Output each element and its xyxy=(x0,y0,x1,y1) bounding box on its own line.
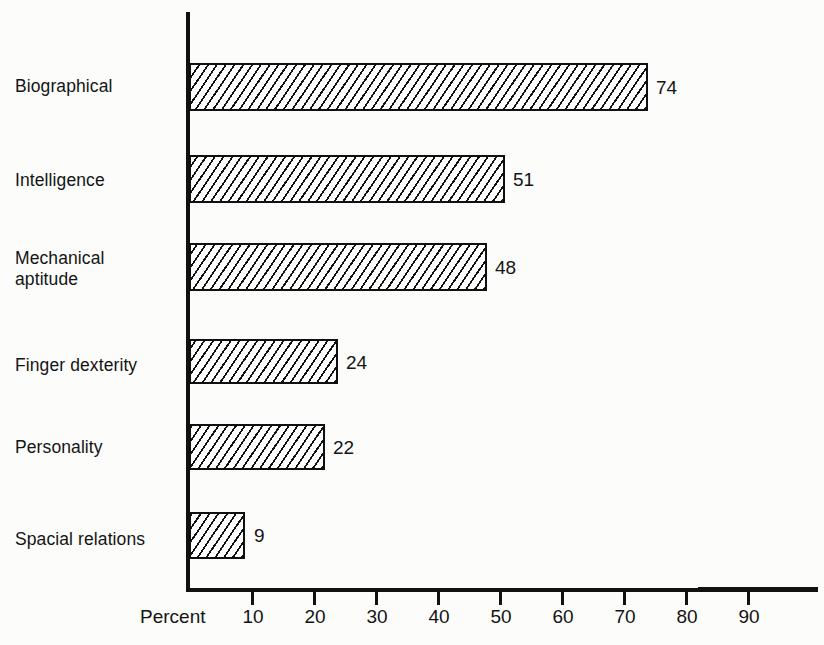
x-tick-label-60: 60 xyxy=(541,606,585,628)
bar-mechanical-aptitude xyxy=(189,243,487,291)
x-tick-60 xyxy=(561,592,564,605)
x-tick-70 xyxy=(623,592,626,605)
x-tick-label-80: 80 xyxy=(665,606,709,628)
x-tick-label-20: 20 xyxy=(293,606,337,628)
bar-spacial-relations xyxy=(189,512,245,559)
bar-finger-dexterity xyxy=(189,339,338,384)
bar-chart: Biographical Intelligence Mechanical apt… xyxy=(0,0,824,645)
category-label-spacial-relations: Spacial relations xyxy=(15,529,183,550)
x-axis-title: Percent xyxy=(140,606,205,628)
bar-personality xyxy=(189,424,325,470)
bar-biographical xyxy=(189,63,648,111)
x-tick-label-70: 70 xyxy=(603,606,647,628)
category-label-biographical: Biographical xyxy=(15,76,183,97)
x-tick-10 xyxy=(251,592,254,605)
category-label-finger-dexterity: Finger dexterity xyxy=(15,355,183,376)
x-axis-line xyxy=(186,588,818,592)
x-tick-label-30: 30 xyxy=(355,606,399,628)
x-tick-label-40: 40 xyxy=(417,606,461,628)
bar-value-mechanical-aptitude: 48 xyxy=(495,257,516,279)
bar-value-intelligence: 51 xyxy=(513,169,534,191)
category-label-mechanical-aptitude: Mechanical aptitude xyxy=(15,248,183,290)
x-tick-90 xyxy=(747,592,750,605)
category-label-personality: Personality xyxy=(15,437,183,458)
bar-value-personality: 22 xyxy=(333,437,354,459)
bar-value-biographical: 74 xyxy=(656,77,677,99)
x-tick-30 xyxy=(375,592,378,605)
x-tick-80 xyxy=(685,592,688,605)
bar-value-spacial-relations: 9 xyxy=(254,525,265,547)
x-tick-20 xyxy=(313,592,316,605)
x-tick-label-10: 10 xyxy=(231,606,275,628)
bar-intelligence xyxy=(189,155,505,203)
bar-value-finger-dexterity: 24 xyxy=(346,352,367,374)
x-tick-label-50: 50 xyxy=(479,606,523,628)
x-tick-label-90: 90 xyxy=(727,606,771,628)
category-label-intelligence: Intelligence xyxy=(15,170,183,191)
x-tick-50 xyxy=(499,592,502,605)
x-tick-40 xyxy=(437,592,440,605)
